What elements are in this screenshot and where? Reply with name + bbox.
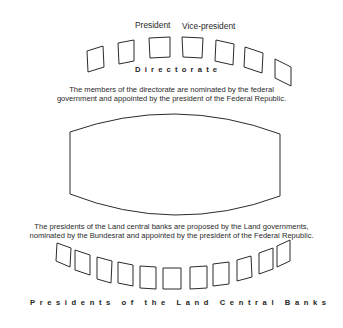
- directorate-seat-7: [275, 59, 291, 86]
- land-bank-seat-5: [140, 266, 156, 289]
- land-bank-seat-11: [277, 240, 290, 267]
- land-bank-seat-9: [237, 256, 252, 281]
- directorate-description-line-2: government and appointed by the presiden…: [0, 94, 343, 103]
- central-bank-council-lens: [70, 114, 280, 215]
- land-bank-seat-4: [118, 262, 133, 286]
- land-banks-description-line-1: The presidents of the Land central banks…: [0, 222, 343, 231]
- land-bank-seat-1: [56, 243, 71, 267]
- directorate-seat-2: [118, 40, 134, 64]
- land-bank-seat-10: [259, 248, 273, 274]
- directorate-seat-6: [244, 47, 263, 73]
- directorate-seat-president: [149, 37, 170, 58]
- directorate-seat-5: [215, 40, 234, 65]
- vice-president-label: Vice-president: [182, 21, 235, 31]
- land-bank-seat-2: [75, 250, 90, 275]
- council-diagram: [0, 0, 343, 328]
- president-label: President: [135, 20, 170, 30]
- land-banks-title: Presidents of the Land Central Banks: [30, 298, 331, 307]
- land-bank-seat-6: [163, 268, 181, 289]
- directorate-title: Directorate: [135, 65, 221, 74]
- directorate-seat-vice-president: [182, 37, 203, 58]
- land-bank-seat-3: [97, 257, 112, 283]
- land-banks-description-line-2: nominated by the Bundesrat and appointed…: [0, 231, 343, 240]
- directorate-description-line-1: The members of the directorate are nomin…: [0, 85, 343, 94]
- land-bank-seats: [56, 240, 290, 289]
- land-bank-seat-8: [213, 262, 229, 286]
- directorate-seats: [87, 37, 291, 86]
- directorate-seat-1: [87, 46, 104, 72]
- land-bank-seat-7: [190, 266, 207, 289]
